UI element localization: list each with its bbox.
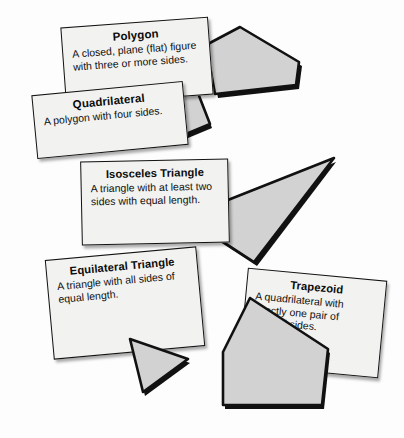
trapezoid-shape [0,0,404,438]
worksheet-canvas: Polygon A closed, plane (flat) figure wi… [0,0,404,438]
